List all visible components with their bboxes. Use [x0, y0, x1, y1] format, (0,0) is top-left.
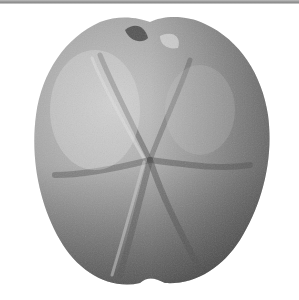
echinoid-fossil-photo [0, 0, 299, 300]
